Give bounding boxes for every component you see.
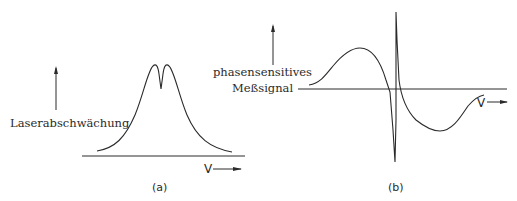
panel-a-absorption-curve [97,65,232,152]
panel-b-x-label: V [477,96,508,110]
arrow-head-icon [233,167,242,171]
arrow-up-icon [54,66,58,74]
diagram-canvas: V Laserabschwächung (a) V phasensensitiv… [0,0,517,201]
panel-b-caption: (b) [388,181,404,194]
panel-b: V [271,12,508,162]
x-axis-label: V [477,96,486,110]
panel-b-y-label-line1: phasensensitives [213,65,312,79]
panel-a-x-label: V [204,162,242,176]
panel-a-y-label: Laserabschwächung [10,116,130,130]
arrow-head-icon [500,100,508,104]
panel-b-derivative-curve [309,12,484,162]
x-axis-label: V [204,162,213,176]
panel-a-caption: (a) [152,181,167,194]
arrow-up-icon [271,24,275,32]
panel-b-y-label-line2: Meßsignal [232,81,293,95]
